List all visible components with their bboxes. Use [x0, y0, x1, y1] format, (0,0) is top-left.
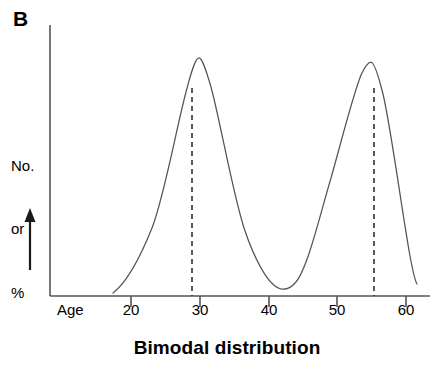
x-tick-label-60: 60: [389, 302, 423, 317]
x-axis-origin-label: Age: [57, 302, 84, 317]
x-tick-label-50: 50: [320, 302, 354, 317]
arrow-head-icon: [25, 208, 36, 222]
distribution-curve: [113, 58, 417, 293]
y-axis-direction-arrow: [25, 208, 36, 270]
x-tick-label-40: 40: [252, 302, 286, 317]
x-tick-label-30: 30: [183, 302, 217, 317]
chart-title: Bimodal distribution: [0, 338, 446, 357]
bimodal-distribution-figure: B No. or % Age 20 30 40 50 60 Bimodal di…: [0, 0, 446, 373]
x-tick-label-20: 20: [114, 302, 148, 317]
